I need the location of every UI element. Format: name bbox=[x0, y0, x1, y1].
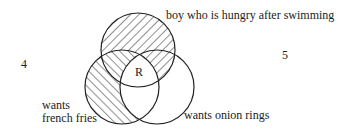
outside-left-number: 4 bbox=[21, 58, 27, 71]
right-set-label: wants onion rings bbox=[184, 109, 269, 122]
region-label-r: R bbox=[135, 66, 143, 79]
outside-right-number: 5 bbox=[282, 49, 288, 62]
top-set-label: boy who is hungry after swimming bbox=[166, 9, 334, 22]
left-set-label-line2: french fries bbox=[42, 112, 97, 125]
